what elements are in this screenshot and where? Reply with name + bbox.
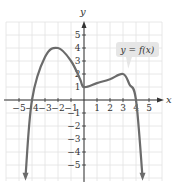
x-tick-label: −5 [12,103,26,113]
y-tick-label: −4 [67,147,81,157]
arrowhead-left-icon [23,173,29,181]
graph: −5−4−3−2−112345−5−4−3−2−112345 y = f(x) … [0,0,175,191]
x-tick-label: −3 [38,103,52,113]
callout-label: y = f(x) [120,45,155,55]
x-axis-label: x [166,94,172,105]
y-tick-label: 1 [75,82,81,92]
x-tick-label: 5 [146,103,152,113]
y-tick-label: 3 [75,56,81,66]
x-tick-label: 2 [107,103,113,113]
y-tick-label: −1 [67,108,80,118]
y-tick-label: −3 [67,134,81,144]
callout: y = f(x) [116,42,159,69]
y-axis-label: y [79,6,86,17]
y-tick-label: 4 [75,43,81,53]
y-tick-label: −5 [67,160,81,170]
x-tick-label: 3 [120,103,126,113]
y-tick-label: −2 [67,121,80,131]
y-tick-label: 5 [75,30,81,40]
arrowhead-right-icon [140,173,146,181]
x-tick-label: −2 [51,103,64,113]
x-axis-arrow-icon [157,98,164,103]
x-tick-label: 1 [94,103,100,113]
